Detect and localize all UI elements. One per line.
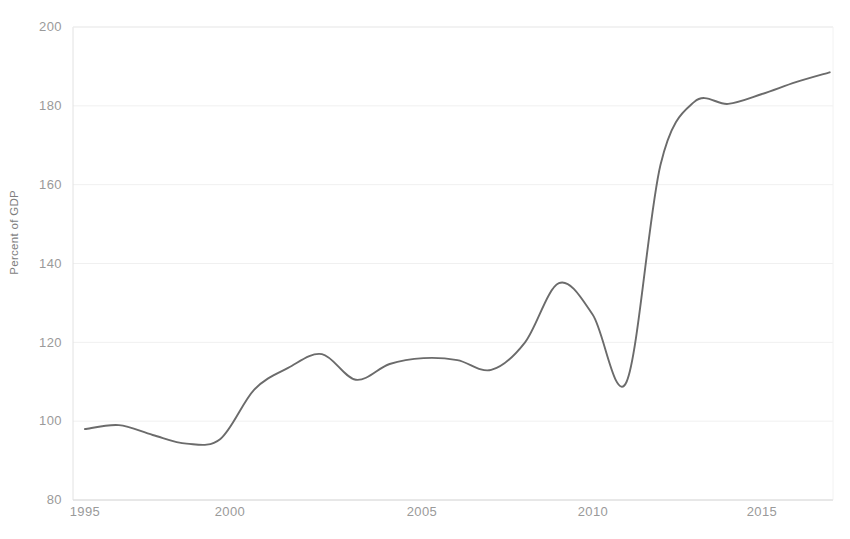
data-series-line	[85, 72, 830, 445]
gridlines-group	[73, 27, 833, 500]
chart-container: Percent of GDP 200 180 160 140 120 100 8…	[0, 0, 850, 539]
plot-area	[0, 0, 850, 539]
